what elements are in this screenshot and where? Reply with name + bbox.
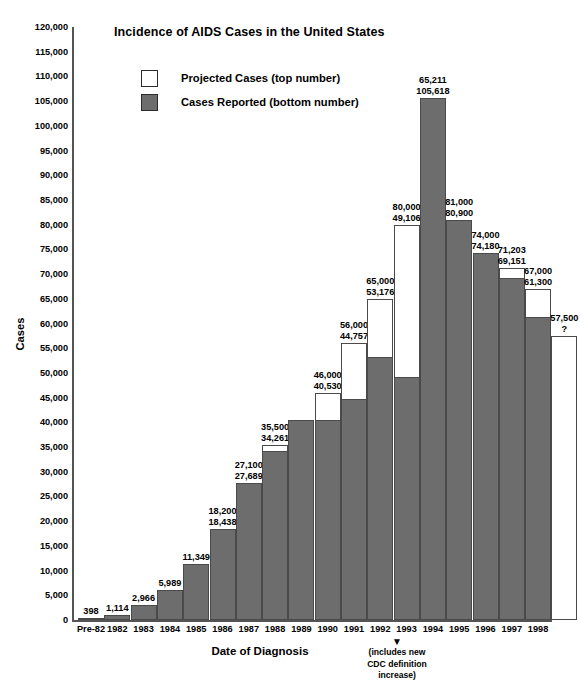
bar-projected[interactable] [551,336,577,620]
bar-label-reported: 49,106 [393,213,421,224]
bar-label-reported: 5,989 [158,578,181,589]
aids-incidence-chart: Incidence of AIDS Cases in the United St… [0,0,580,692]
bar-label-projected: 57,500 [550,313,578,324]
bar-reported[interactable] [420,98,446,620]
bar-label-projected: 27,100 [235,460,263,471]
bar-label-reported: 40,530 [314,381,342,392]
bar-value-labels: 81,00080,900 [445,197,473,219]
x-axis-tick-labels: Pre-821982198319841985198619871988198919… [74,624,552,644]
bar-group[interactable]: 5,989 [157,590,185,620]
bar-group[interactable]: 65,00053,176 [367,299,395,620]
bar-group[interactable]: 2,966 [131,605,159,620]
bar-value-labels: 65,211105,618 [416,75,449,97]
bar-label-reported: 34,261 [261,433,289,444]
bar-label-projected: 81,000 [445,197,473,208]
bar-value-labels: 67,00061,300 [524,266,552,288]
y-tick-label: 110,000 [2,71,68,81]
y-tick-label: 15,000 [2,541,68,551]
bar-group[interactable]: 18,20018,438 [210,529,238,620]
bar-label-projected: 56,000 [340,320,368,331]
bar-group[interactable]: 81,00080,900 [446,220,474,620]
bar-reported[interactable] [446,220,472,620]
bar-group[interactable]: 27,10027,689 [236,483,264,620]
bar-reported[interactable] [315,420,341,620]
bar-label-reported: 11,349 [182,552,210,563]
plot-area: 3981,1142,9665,98911,34918,20018,43827,1… [74,27,552,620]
bar-group[interactable] [288,420,316,620]
y-tick-label: 5,000 [2,590,68,600]
bar-reported[interactable] [473,253,499,620]
bar-reported[interactable] [262,451,288,620]
y-tick-label: 70,000 [2,269,68,279]
annotation-arrow-icon: ▼ [337,637,457,646]
bar-group[interactable]: 71,20369,151 [499,268,527,620]
bar-value-labels: 18,20018,438 [208,506,236,528]
bar-label-reported: 74,180 [471,241,499,252]
bar-reported[interactable] [367,357,393,620]
bar-reported[interactable] [525,317,551,620]
bar-group[interactable]: 65,211105,618 [420,98,448,620]
y-tick-label: 45,000 [2,393,68,403]
bar-value-labels: 74,00074,180 [471,230,499,252]
bar-label-reported: 18,438 [208,517,236,528]
bar-group[interactable]: 80,00049,106 [394,225,422,620]
bar-label-projected: 74,000 [471,230,499,241]
bar-reported[interactable] [157,590,183,620]
bar-label-reported: ? [550,324,578,335]
y-axis-title: Cases [14,294,26,374]
bar-label-reported: 80,900 [445,208,473,219]
y-tick-label: 85,000 [2,195,68,205]
bar-value-labels: 27,10027,689 [235,460,263,482]
bar-label-reported: 53,176 [366,287,394,298]
bar-value-labels: 35,50034,261 [261,422,289,444]
bar-reported[interactable] [288,420,314,620]
y-tick-label: 20,000 [2,516,68,526]
y-tick-label: 115,000 [2,47,68,57]
y-tick-label: 60,000 [2,319,68,329]
bar-group[interactable]: 57,500? [551,336,579,620]
bar-reported[interactable] [210,529,236,620]
y-axis-tick-labels: 120,000115,000110,000105,000100,00095,00… [0,0,68,692]
y-tick-label: 105,000 [2,96,68,106]
bar-value-labels: 80,00049,106 [393,202,421,224]
y-tick-label: 35,000 [2,442,68,452]
bar-group[interactable]: 46,00040,530 [315,393,343,620]
y-tick-label: 55,000 [2,343,68,353]
y-tick-label: 100,000 [2,121,68,131]
bar-reported[interactable] [341,399,367,620]
bar-value-labels: 46,00040,530 [314,370,342,392]
bar-group[interactable]: 74,00074,180 [473,253,501,620]
y-tick-label: 40,000 [2,417,68,427]
x-axis-title: Date of Diagnosis [160,645,360,657]
bar-label-reported: 2,966 [132,593,155,604]
bar-reported[interactable] [236,483,262,620]
bar-group[interactable]: 11,349 [183,564,211,620]
bar-label-projected: 65,000 [366,276,394,287]
bar-label-reported: 44,757 [340,331,368,342]
bar-group[interactable]: 56,00044,757 [341,343,369,620]
bar-label-projected: 67,000 [524,266,552,277]
bar-value-labels: 1,114 [106,603,128,614]
bar-value-labels: 65,00053,176 [366,276,394,298]
cdc-definition-annotation: ▼ (includes new CDC definition increase) [337,637,457,682]
bar-group[interactable]: 35,50034,261 [262,445,290,620]
annotation-line-2: CDC definition [337,659,457,671]
bar-label-reported: 61,300 [524,277,552,288]
bar-reported[interactable] [394,377,420,620]
bar-label-reported: 1,114 [106,603,128,614]
bar-label-reported: 69,151 [498,256,526,267]
y-tick-label: 30,000 [2,467,68,477]
bar-reported[interactable] [499,278,525,620]
bar-value-labels: 11,349 [182,552,210,563]
bar-label-projected: 18,200 [208,506,236,517]
bar-value-labels: 2,966 [132,593,155,604]
bar-label-projected: 80,000 [393,202,421,213]
bar-reported[interactable] [131,605,157,620]
y-tick-label: 95,000 [2,146,68,156]
bar-reported[interactable] [183,564,209,620]
bar-group[interactable]: 67,00061,300 [525,289,553,620]
bar-label-projected: 46,000 [314,370,342,381]
y-tick-label: 120,000 [2,22,68,32]
y-tick-label: 10,000 [2,566,68,576]
bar-value-labels: 398 [83,606,98,617]
